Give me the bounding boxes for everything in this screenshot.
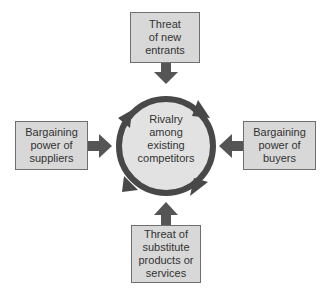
force-threat-substitutes: Threat of substitute products or service… — [131, 225, 201, 283]
label-line: existing — [126, 139, 206, 152]
label-line: power of — [253, 139, 306, 152]
label-line: Bargaining — [25, 126, 78, 139]
label-line: power of — [25, 139, 78, 152]
label-line: Threat — [145, 18, 185, 31]
label-line: among — [126, 126, 206, 139]
force-threat-new-entrants: Threat of new entrants — [130, 12, 200, 63]
force-bargaining-power-buyers: Bargaining power of buyers — [243, 121, 316, 170]
label-line: Bargaining — [253, 126, 306, 139]
label-line: competitors — [126, 152, 206, 165]
center-rivalry-label: Rivalry among existing competitors — [126, 113, 206, 165]
label-line: of new — [145, 31, 185, 44]
label-line: substitute — [138, 241, 193, 254]
label-line: Rivalry — [126, 113, 206, 126]
force-bargaining-power-suppliers: Bargaining power of suppliers — [15, 121, 88, 170]
arrow-left-icon — [219, 134, 243, 158]
label-line: suppliers — [25, 152, 78, 165]
arrow-right-icon — [88, 134, 112, 158]
label-line: products or — [138, 254, 193, 267]
label-line: buyers — [253, 152, 306, 165]
arrow-down-icon — [154, 63, 178, 84]
label-line: Threat of — [138, 228, 193, 241]
label-line: entrants — [145, 44, 185, 57]
label-line: services — [138, 267, 193, 280]
arrow-up-icon — [154, 202, 178, 226]
